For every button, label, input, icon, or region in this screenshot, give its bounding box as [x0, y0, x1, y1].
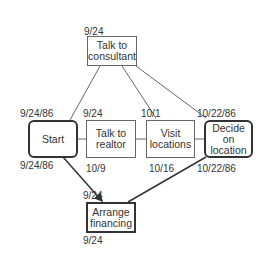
- node-label-line2: financing: [90, 218, 132, 229]
- node-talk-to-realtor[interactable]: Talk to realtor: [86, 120, 136, 158]
- visit-date-top: 10/1: [141, 108, 160, 119]
- realtor-date-top: 9/24: [83, 108, 102, 119]
- node-label-line2: consultant: [88, 51, 136, 62]
- node-visit-locations[interactable]: Visit locations: [146, 120, 195, 158]
- visit-date-bottom: 10/16: [149, 163, 174, 174]
- node-decide-on-location[interactable]: Decide on location: [204, 120, 253, 158]
- node-start[interactable]: Start: [28, 120, 78, 158]
- node-label: Start: [42, 134, 64, 145]
- node-label-line1: Arrange: [92, 207, 129, 218]
- financing-date-top: 9/24: [83, 190, 102, 201]
- start-date-top: 9/24/86: [20, 108, 53, 119]
- realtor-date-bottom: 10/9: [86, 163, 105, 174]
- node-label-line2: locations: [150, 139, 191, 150]
- decide-date-top: 10/22/86: [197, 108, 236, 119]
- node-label-line1: Decide on: [206, 123, 251, 145]
- decide-date-bottom: 10/22/86: [197, 163, 236, 174]
- node-talk-to-consultant[interactable]: Talk to consultant: [87, 36, 137, 66]
- start-date-bottom: 9/24/86: [20, 160, 53, 171]
- node-arrange-financing[interactable]: Arrange financing: [86, 202, 136, 233]
- financing-date-bottom: 9/24: [83, 235, 102, 246]
- node-label-line2: realtor: [96, 139, 126, 150]
- node-label-line2: location: [210, 145, 246, 156]
